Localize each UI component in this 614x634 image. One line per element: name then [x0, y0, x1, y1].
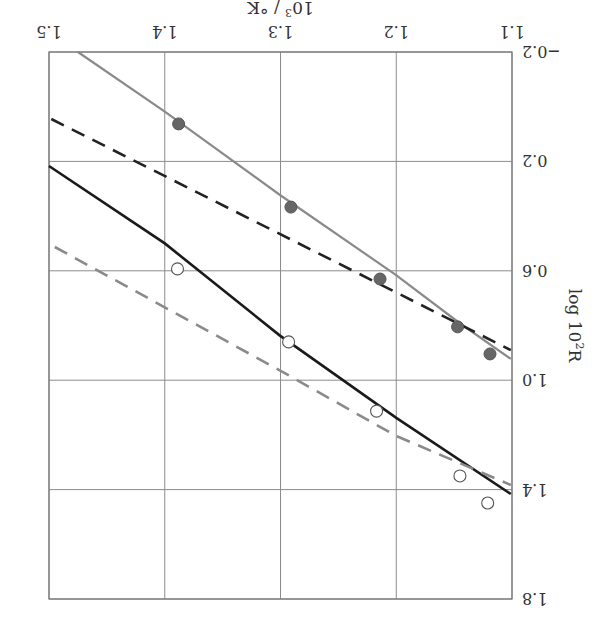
y-tick-label: 1.4	[522, 480, 547, 499]
data-point-filled	[452, 321, 464, 333]
data-point-open	[482, 497, 494, 509]
series-line-black-solid-fit	[49, 166, 511, 494]
y-tick-label: 1.0	[522, 370, 547, 389]
data-point-filled	[484, 348, 496, 360]
x-tick-labels: 1.11.21.31.41.5	[36, 22, 524, 41]
chart: 1.11.21.31.41.5 −0.20.20.61.01.41.8 103 …	[0, 0, 614, 634]
data-point-open	[171, 263, 183, 275]
x-tick-label: 1.5	[36, 22, 61, 41]
x-tick-label: 1.3	[268, 22, 293, 41]
grid	[49, 52, 512, 599]
data-point-open	[283, 336, 295, 348]
data-point-filled	[374, 273, 386, 285]
chart-canvas: 1.11.21.31.41.5 −0.20.20.61.01.41.8 103 …	[0, 0, 614, 634]
y-axis-label: log 102R	[565, 289, 586, 364]
y-tick-label: 0.6	[522, 261, 547, 280]
x-tick-label: 1.4	[152, 22, 177, 41]
x-tick-label: 1.2	[384, 22, 409, 41]
series-lines	[49, 52, 511, 494]
data-point-open	[371, 405, 383, 417]
x-tick-label: 1.1	[499, 22, 524, 41]
x-axis-label: 103 / °K	[247, 0, 314, 19]
data-point-filled	[173, 118, 185, 130]
data-point-filled	[285, 201, 297, 213]
y-tick-label: −0.2	[522, 42, 561, 61]
series-line-black-dashed	[51, 119, 511, 350]
y-tick-label: 0.2	[522, 151, 547, 170]
data-point-open	[454, 470, 466, 482]
y-tick-labels: −0.20.20.61.01.41.8	[522, 42, 561, 608]
y-tick-label: 1.8	[522, 589, 547, 608]
